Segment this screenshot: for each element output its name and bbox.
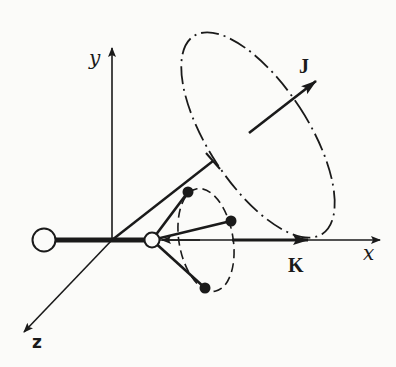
outer-atom-top [183, 187, 194, 198]
z-axis [24, 240, 112, 332]
molecule-precession-diagram: y x z J K [0, 0, 396, 367]
outer-atom-right [226, 216, 237, 227]
y-axis-label: y [88, 46, 101, 70]
central-atom [145, 233, 160, 248]
bond-bottom [152, 240, 205, 288]
cone-tick [206, 153, 220, 169]
z-axis-label: z [32, 332, 42, 352]
J-label: J [299, 55, 309, 77]
outer-atom-bottom [200, 283, 211, 294]
large-atom [33, 229, 56, 252]
x-axis-label: x [363, 241, 374, 265]
precession-ellipse [152, 9, 364, 261]
J-vector-arrow [249, 81, 316, 133]
K-label: K [288, 254, 304, 276]
